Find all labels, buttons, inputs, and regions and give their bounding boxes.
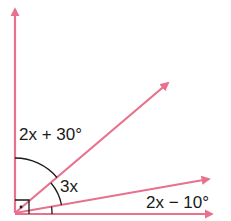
label-angle-middle: 3x (60, 177, 78, 196)
angle-diagram: 2x + 30° 3x 2x − 10° (0, 0, 231, 221)
label-angle-top: 2x + 30° (19, 125, 82, 144)
angle-arc-bottom (52, 207, 53, 215)
label-angle-bottom: 2x − 10° (146, 193, 209, 212)
vertex-dot (20, 206, 23, 209)
angle-arc-top (15, 158, 57, 178)
